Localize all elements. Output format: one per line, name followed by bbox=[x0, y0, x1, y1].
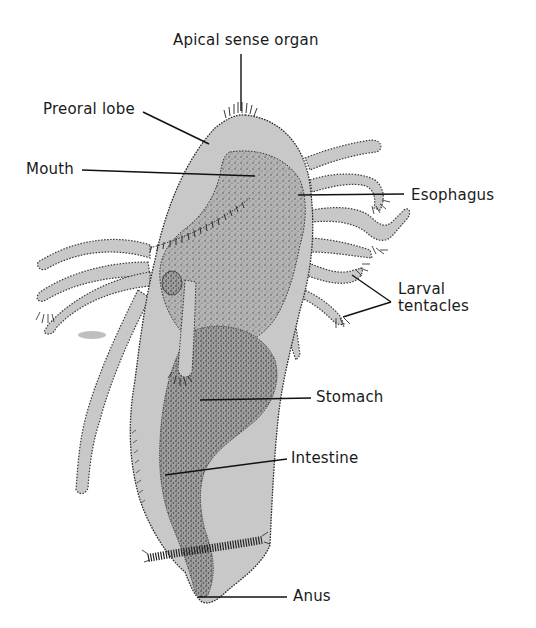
pigmented-organ bbox=[162, 271, 182, 295]
label-intestine: Intestine bbox=[291, 450, 358, 467]
smudge bbox=[78, 331, 106, 339]
leader-tentacles-b bbox=[343, 302, 391, 317]
label-esophagus: Esophagus bbox=[411, 187, 494, 204]
label-mouth: Mouth bbox=[26, 161, 74, 178]
leader-preoral-lobe bbox=[143, 112, 209, 144]
larva-anatomy-diagram: Apical sense organ Preoral lobe Mouth Es… bbox=[0, 0, 536, 628]
label-anus: Anus bbox=[293, 588, 331, 605]
label-stomach: Stomach bbox=[316, 389, 384, 406]
label-apical-sense-organ: Apical sense organ bbox=[173, 32, 319, 49]
label-preoral-lobe: Preoral lobe bbox=[43, 101, 135, 118]
leader-esophagus bbox=[298, 194, 404, 195]
label-larval-tentacles-line2: tentacles bbox=[398, 298, 469, 315]
leader-tentacles-a bbox=[352, 275, 391, 302]
label-larval-tentacles-line1: Larval bbox=[398, 281, 445, 298]
